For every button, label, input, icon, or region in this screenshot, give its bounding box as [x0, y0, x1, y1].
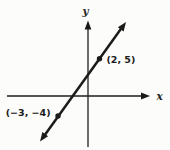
point-2-5-label: (2, 5): [107, 54, 136, 65]
y-axis-arrowhead-icon: [85, 21, 92, 30]
point-neg3-neg4-label: (−3, −4): [6, 107, 51, 118]
y-axis-label: y: [82, 5, 90, 17]
point-neg3-neg4-marker: [55, 113, 60, 118]
x-axis-arrowhead-icon: [141, 93, 150, 100]
line-graph-svg: y x (2, 5) (−3, −4): [0, 0, 170, 150]
coordinate-plane-figure: y x (2, 5) (−3, −4): [0, 0, 170, 150]
point-2-5-marker: [97, 56, 102, 61]
plotted-line: [45, 29, 121, 135]
x-axis-label: x: [156, 90, 164, 102]
